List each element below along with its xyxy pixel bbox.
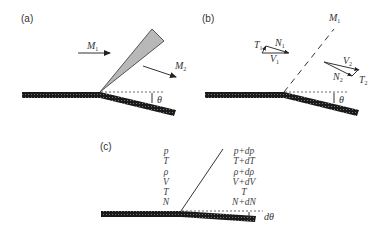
property-downstream: T+dT (233, 156, 255, 166)
tangential-label-1: T1 (254, 39, 263, 51)
tangential-vector-2 (352, 70, 358, 76)
velocity-vector-2 (324, 62, 359, 70)
velocity-label-2: V2 (343, 55, 352, 67)
property-downstream: p+dp (233, 146, 255, 156)
property-upstream: N (162, 197, 170, 207)
property-downstream: ρ+dρ (233, 167, 255, 177)
mach-line-label: M1 (328, 12, 340, 24)
panel-label-b: (b) (202, 13, 214, 24)
upstream-mach-label: M1 (86, 40, 98, 52)
property-downstream: T (241, 187, 247, 197)
wall-downstream (100, 92, 176, 116)
tangential-vector-1 (262, 46, 266, 53)
panel-a: (a) M1 M2 θ (21, 13, 186, 116)
property-downstream: N+dN (231, 197, 256, 207)
downstream-mach-label: M2 (174, 60, 186, 72)
mach-line (284, 29, 334, 92)
panel-c: (c) p T ρ V T N p+dp T+dT ρ+dρ V+dV T N+… (100, 141, 274, 222)
property-upstream: T (163, 156, 169, 166)
panel-b: (b) M1 T1 N1 V1 V2 N2 T2 θ (202, 12, 368, 116)
wall-downstream (181, 211, 256, 222)
panel-label-c: (c) (100, 141, 112, 152)
angle-label: dθ (264, 211, 274, 222)
wave-line (181, 149, 223, 211)
property-upstream: T (163, 187, 169, 197)
panel-label-a: (a) (21, 13, 33, 24)
normal-label-1: N1 (274, 37, 285, 49)
normal-label-2: N2 (332, 71, 343, 83)
velocity-label-1: V1 (270, 53, 279, 65)
wall-upstream (101, 211, 181, 217)
property-upstream: ρ (163, 167, 169, 177)
figure-canvas: (a) M1 M2 θ (b) M1 T1 N1 V1 V2 N2 T2 (0, 0, 382, 233)
wall-upstream (205, 92, 284, 98)
wall-downstream (284, 92, 359, 116)
angle-label: θ (339, 94, 344, 105)
property-downstream: V+dV (233, 177, 257, 187)
property-upstream: V (163, 177, 170, 187)
downstream-properties: p+dp T+dT ρ+dρ V+dV T N+dN (231, 146, 256, 207)
property-upstream: p (163, 146, 169, 156)
downstream-mach-arrow (143, 66, 176, 77)
expansion-fan (100, 29, 164, 92)
angle-label: θ (157, 94, 162, 105)
wall-upstream (22, 92, 100, 98)
tangential-label-2: T2 (359, 74, 368, 86)
upstream-properties: p T ρ V T N (162, 146, 170, 207)
